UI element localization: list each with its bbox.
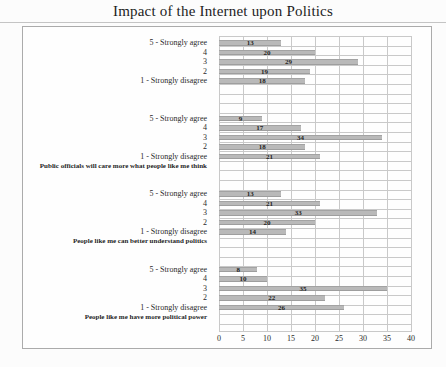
bar-value-label: 29 [285, 57, 292, 67]
value-axis: 0510152025303540 [23, 334, 431, 346]
bar-value-label: 18 [259, 142, 266, 152]
plot-area: 13202919189173418211321332014810352226 [219, 36, 412, 332]
chart: Impact of the Internet upon Politics 132… [0, 0, 446, 367]
category-label: 4 [203, 123, 207, 133]
category-label: 2 [203, 142, 207, 152]
x-tick-label: 25 [335, 334, 343, 343]
bar-value-label: 18 [259, 76, 266, 86]
x-tick-label: 15 [287, 334, 295, 343]
bar-value-label: 19 [261, 67, 268, 77]
bar-value-label: 14 [249, 227, 256, 237]
x-tick-label: 20 [311, 334, 319, 343]
category-label: 1 - Strongly disagree [140, 303, 207, 313]
bar-value-label: 10 [240, 274, 247, 284]
bar-value-label: 13 [247, 38, 254, 48]
bar-value-label: 20 [264, 48, 271, 58]
category-label: 3 [203, 57, 207, 67]
category-label: 5 - Strongly agree [149, 114, 207, 124]
x-tick-label: 5 [241, 334, 245, 343]
bar-value-label: 21 [266, 199, 273, 209]
category-label: 2 [203, 218, 207, 228]
bar-value-label: 33 [295, 208, 302, 218]
x-tick-label: 0 [217, 334, 221, 343]
category-label: 4 [203, 199, 207, 209]
title-underline [0, 22, 446, 23]
bar-value-label: 26 [278, 303, 285, 313]
category-label: 1 - Strongly disagree [140, 76, 207, 86]
category-label: 3 [203, 284, 207, 294]
category-label: 2 [203, 67, 207, 77]
category-label: 2 [203, 293, 207, 303]
chart-title: Impact of the Internet upon Politics [0, 3, 446, 20]
group-label: People like me can better understand pol… [73, 237, 207, 247]
category-label: 3 [203, 133, 207, 143]
category-label: 1 - Strongly disagree [140, 152, 207, 162]
bar-value-label: 35 [300, 284, 307, 294]
bar-value-label: 20 [264, 218, 271, 228]
x-tick-label: 10 [263, 334, 271, 343]
category-label: 4 [203, 274, 207, 284]
category-label: 1 - Strongly disagree [140, 227, 207, 237]
category-axis: 5 - Strongly agree4321 - Strongly disagr… [23, 36, 213, 331]
category-label: 5 - Strongly agree [149, 189, 207, 199]
category-label: 4 [203, 48, 207, 58]
group-label: People like me have more political power [85, 313, 207, 323]
group-label: Public officials will care more what peo… [40, 162, 207, 172]
category-label: 3 [203, 208, 207, 218]
bar-value-label: 9 [239, 114, 243, 124]
x-tick-label: 30 [359, 334, 367, 343]
bar-value-label: 22 [268, 293, 275, 303]
chart-area: 13202919189173418211321332014810352226 5… [22, 26, 432, 349]
x-tick-label: 35 [383, 334, 391, 343]
category-label: 5 - Strongly agree [149, 265, 207, 275]
x-tick-label: 40 [407, 334, 415, 343]
category-label: 5 - Strongly agree [149, 38, 207, 48]
bar-value-label: 34 [297, 133, 304, 143]
bar-value-label: 17 [256, 123, 263, 133]
bar-value-label: 8 [236, 265, 240, 275]
bar-value-label: 21 [266, 152, 273, 162]
bar-value-label: 13 [247, 189, 254, 199]
